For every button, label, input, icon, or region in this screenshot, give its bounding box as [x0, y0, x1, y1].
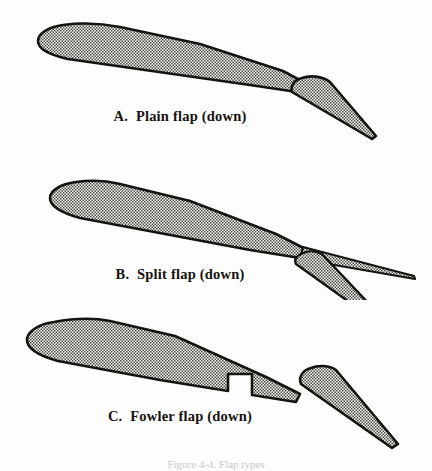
caption-text-c: Fowler flap (down)	[130, 408, 252, 424]
caption-fowler-flap: C. Fowler flap (down)	[0, 408, 360, 425]
split-flap-main-body	[50, 181, 305, 258]
caption-text-b: Split flap (down)	[137, 266, 244, 282]
caption-letter-b: B.	[116, 266, 130, 282]
flap-types-figure: A. Plain flap (down) B. Split flap (down…	[0, 0, 432, 471]
caption-split-flap: B. Split flap (down)	[0, 266, 360, 283]
panel-split-flap: B. Split flap (down)	[0, 150, 432, 300]
caption-plain-flap: A. Plain flap (down)	[0, 108, 360, 125]
panel-plain-flap: A. Plain flap (down)	[0, 0, 432, 160]
fowler-flap-extended-segment	[300, 366, 398, 448]
caption-text-a: Plain flap (down)	[136, 108, 247, 124]
panel-fowler-flap: C. Fowler flap (down)	[0, 300, 432, 471]
plain-flap-main-body	[38, 24, 305, 92]
fowler-flap-main-body	[27, 319, 300, 402]
fowler-flap-drawing	[0, 300, 432, 471]
figure-caption: Figure 4-4. Flap types	[0, 458, 432, 470]
caption-letter-a: A.	[114, 108, 129, 124]
caption-letter-c: C.	[108, 408, 123, 424]
plain-flap-drawing	[0, 0, 432, 160]
